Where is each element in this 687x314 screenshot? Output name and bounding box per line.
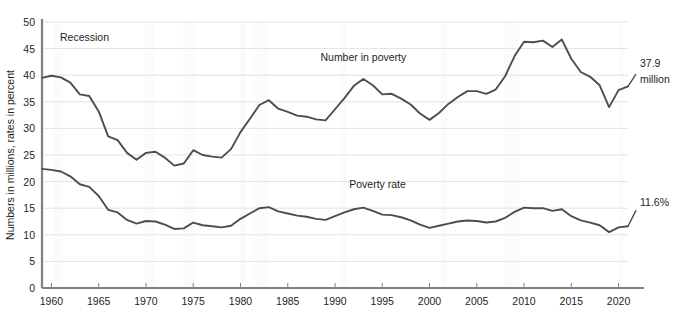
x-tick-label-1965: 1965: [87, 295, 111, 307]
x-tick-label-2015: 2015: [560, 295, 584, 307]
y-tick-label-45: 45: [23, 43, 35, 55]
leader-line-0: [628, 74, 636, 86]
x-tick-label-2010: 2010: [512, 295, 536, 307]
y-tick-label-35: 35: [23, 96, 35, 108]
chart-canvas: 05101520253035404550 1960196519701975198…: [0, 0, 687, 314]
y-tick-label-30: 30: [23, 122, 35, 134]
y-tick-labels: 05101520253035404550: [23, 16, 35, 294]
y-tick-label-20: 20: [23, 176, 35, 188]
x-tick-label-2005: 2005: [465, 295, 489, 307]
y-axis-title: Numbers in millions, rates in percent: [4, 70, 16, 240]
y-tick-label-15: 15: [23, 202, 35, 214]
x-tick-label-1960: 1960: [40, 295, 64, 307]
y-tick-label-40: 40: [23, 69, 35, 81]
annotation-end-value-millions-line2: million: [640, 73, 670, 85]
x-tick-label-1980: 1980: [229, 295, 253, 307]
y-tick-label-5: 5: [29, 255, 35, 267]
leader-line-1: [628, 210, 636, 226]
x-tick-label-1985: 1985: [276, 295, 300, 307]
annotation-end-value-rate: 11.6%: [640, 196, 669, 208]
annotation-end-value-millions-line1: 37.9: [640, 57, 661, 69]
series-line-poverty-rate: [42, 169, 628, 232]
x-tick-label-1990: 1990: [323, 295, 347, 307]
leader-lines: [628, 74, 636, 226]
x-tick-label-2020: 2020: [607, 295, 631, 307]
x-tick-label-1975: 1975: [182, 295, 206, 307]
series-lines: [42, 40, 628, 233]
x-tick-labels: 1960196519701975198019851990199520002005…: [40, 295, 631, 307]
poverty-chart: 05101520253035404550 1960196519701975198…: [0, 0, 687, 314]
x-tick-label-1995: 1995: [371, 295, 395, 307]
annotation-number-in-poverty: Number in poverty: [320, 51, 407, 63]
annotation-poverty-rate: Poverty rate: [349, 178, 406, 190]
annotation-recession: Recession: [60, 31, 109, 43]
y-tick-label-25: 25: [23, 149, 35, 161]
y-tick-label-10: 10: [23, 229, 35, 241]
y-tick-label-0: 0: [29, 282, 35, 294]
x-tick-label-2000: 2000: [418, 295, 442, 307]
y-tick-label-50: 50: [23, 16, 35, 28]
x-tick-label-1970: 1970: [134, 295, 158, 307]
